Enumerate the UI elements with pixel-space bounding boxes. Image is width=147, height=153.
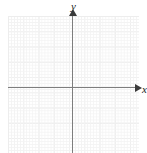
y-axis: [72, 14, 73, 153]
x-axis-label: x: [142, 84, 147, 95]
y-axis-label: y: [68, 1, 79, 12]
graph-grid: [8, 16, 139, 153]
coordinate-plane-figure: y x: [0, 0, 147, 153]
arrow-right-icon: [135, 84, 142, 92]
